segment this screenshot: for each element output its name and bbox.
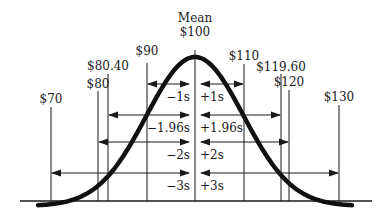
value-label-v100: $100 bbox=[180, 25, 211, 39]
value-label-v120: $120 bbox=[274, 75, 305, 89]
value-label-v70: $70 bbox=[40, 92, 63, 106]
left-sigma-label: −3s bbox=[166, 179, 190, 193]
value-label-v110: $110 bbox=[229, 49, 260, 63]
value-label-v8040: $80.40 bbox=[87, 59, 129, 73]
value-label-v80: $80 bbox=[87, 77, 110, 91]
right-sigma-label: +1s bbox=[200, 90, 224, 104]
value-label-v90: $90 bbox=[136, 44, 159, 58]
mean-label-title: Mean bbox=[178, 11, 213, 25]
value-markers: $70$80$80.40$90$100$110$119.60$120$130 bbox=[40, 25, 355, 201]
right-sigma-label: +2s bbox=[200, 148, 224, 162]
value-label-v130: $130 bbox=[324, 90, 355, 104]
left-sigma-label: −1s bbox=[166, 90, 190, 104]
normal-distribution-diagram: $70$80$80.40$90$100$110$119.60$120$130 M… bbox=[0, 0, 392, 216]
right-sigma-label: +1.96s bbox=[200, 121, 243, 135]
value-label-v11960: $119.60 bbox=[256, 60, 306, 74]
left-sigma-label: −2s bbox=[166, 148, 190, 162]
right-sigma-label: +3s bbox=[200, 179, 224, 193]
left-sigma-label: −1.96s bbox=[147, 121, 190, 135]
